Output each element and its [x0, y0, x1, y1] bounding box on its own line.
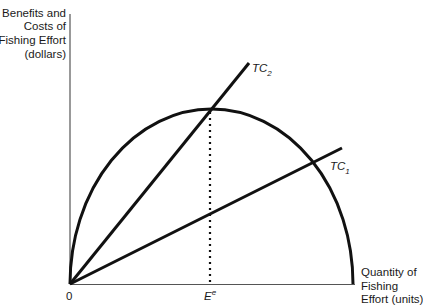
- y-axis-label: Benefits and Costs of Fishing Effort (do…: [0, 7, 67, 60]
- tc1-label: TC1: [330, 160, 350, 176]
- tc2-label: TC2: [252, 62, 272, 78]
- x-label-line-2: Fishing: [361, 280, 398, 292]
- y-label-line-2: Costs of: [24, 20, 67, 32]
- x-label-line-1: Quantity of: [361, 266, 417, 278]
- total-benefits-curve: [70, 109, 353, 284]
- y-label-line-3: Fishing Effort: [0, 34, 67, 46]
- fishing-effort-diagram: Benefits and Costs of Fishing Effort (do…: [0, 0, 423, 305]
- origin-label: 0: [66, 290, 72, 302]
- y-label-line-1: Benefits and: [2, 7, 66, 19]
- tc2-line: [70, 63, 249, 284]
- ee-tick-label: Ee: [204, 288, 217, 302]
- x-label-line-3: Effort (units): [361, 293, 423, 305]
- y-label-line-4: (dollars): [24, 48, 66, 60]
- x-axis-label: Quantity of Fishing Effort (units): [361, 266, 423, 305]
- tc1-line: [70, 148, 342, 284]
